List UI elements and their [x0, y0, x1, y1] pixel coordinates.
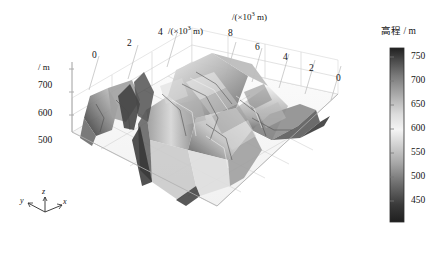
x-axis-tick-8: 8: [228, 29, 233, 39]
colorbar[interactable]: [390, 48, 404, 222]
colorbar-tick-650: 650: [411, 100, 425, 110]
x-axis-tick-0: 0: [336, 74, 341, 84]
colorbar-tick-700: 700: [411, 76, 425, 86]
surface-plot-svg: [0, 0, 448, 253]
z-axis-tick-700: 700: [38, 81, 52, 91]
colorbar-tick-750: 750: [411, 52, 425, 62]
y-axis-tick-2: 2: [127, 39, 132, 49]
y-axis-unit-label: /(×103 m): [168, 25, 203, 36]
colorbar-title: 高程 / m: [381, 27, 416, 37]
z-axis-tick-500: 500: [38, 136, 52, 146]
y-axis-tick-0: 0: [92, 51, 97, 61]
colorbar-tick-450: 450: [411, 196, 425, 206]
colorbar-tick-550: 550: [411, 148, 425, 158]
x-axis-tick-6: 6: [255, 43, 260, 53]
triad-y-arrow: [28, 203, 45, 212]
y-axis-tick-4: 4: [158, 28, 163, 38]
x-axis-tick-4: 4: [283, 53, 288, 63]
triad-label-x: x: [63, 198, 67, 206]
figure-canvas: /(×103 m) 4 2 0 /(×103 m) 8 6 4 2 0 / m …: [0, 0, 448, 253]
colorbar-tick-500: 500: [411, 172, 425, 182]
axis-triad: [28, 197, 62, 212]
triad-label-z: z: [42, 188, 45, 196]
z-axis-tick-600: 600: [38, 109, 52, 119]
colorbar-tick-600: 600: [411, 124, 425, 134]
z-axis-unit-label: / m: [38, 63, 50, 72]
x-axis-unit-label: /(×103 m): [232, 11, 267, 22]
x-axis-tick-2: 2: [309, 64, 314, 74]
triad-label-y: y: [20, 197, 24, 205]
